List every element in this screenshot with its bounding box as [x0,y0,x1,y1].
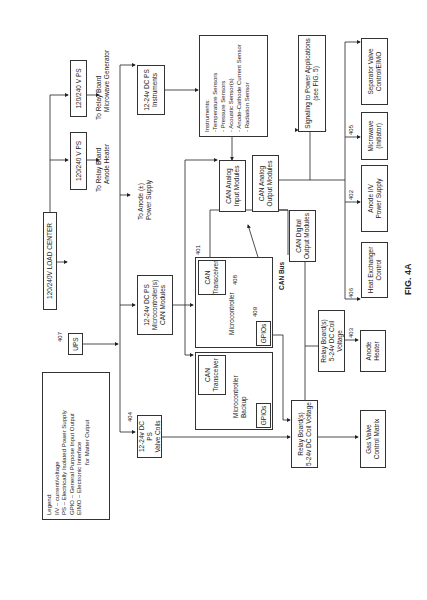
legend-box: Legend: I/V – current/voltage PS – Elect… [42,372,110,520]
dc-ps-valve-box: 12-24v DC PSValve Coils [137,415,162,458]
legend-title: Legend: [46,493,54,515]
ps-anode-heater-box: 120/240 V PS [70,132,87,190]
ref-409: 409 [252,307,258,317]
instruments-box: Instruments:-Temperature Sensors- Pressu… [199,35,268,137]
can-analog-input-box: CAN AnalogInput Modules [219,160,246,212]
signaling-box: Signaling to Power Applications(see FIG.… [298,35,326,132]
can-digital-output-box: CAN DigitalOutput Modules [289,210,316,262]
backup-label: MicrocontrollerBackup [232,375,248,418]
ref-408: 408 [232,275,238,285]
micro-gpios: GPIOs [256,321,271,346]
ref-402: 402 [348,190,354,200]
to-anode-ps-label: To Anode (±)Power Supply [137,180,153,220]
diagram-canvas: 400 Legend: I/V – current/voltage PS – E… [0,0,427,600]
relay-board-small-box: Relay Board(s)5-24v DC Coil Voltage [318,310,345,372]
ref-406: 406 [348,288,354,298]
legend-line: EIMO – Electronic Interface [76,442,84,515]
legend-line: PS – Electrically Isolated Power Supply [61,410,69,515]
ref-407: 407 [57,332,63,342]
gas-valve-box: Gas ValveControl Matrix [360,410,386,468]
backup-can-transceiver: CANTransceiver [198,355,226,395]
load-center-box: 120/240V LOAD CENTER [43,212,57,310]
legend-line: I/V – current/voltage [54,461,62,515]
relay-board-main-box: Relay Board(s)5-24v DC Coil Voltage [291,400,318,468]
ref-403: 403 [348,328,354,338]
to-relay-anode-label: To Relay BoardAnode Heater [95,144,111,192]
ref-405: 405 [348,125,354,135]
anode-heater-box: AnodeHeater [360,330,386,372]
ref-404: 404 [127,412,133,422]
microwave-box: Microwave(Initiator) [361,112,388,160]
can-bus-label: CAN Bus [278,262,286,290]
micro-label: Microcontroller [228,292,236,335]
ps-microwave-box: 120/240 V PS [70,60,87,117]
backup-gpios: GPIOs [256,403,271,428]
ups-box: UPS [68,333,83,355]
anode-iv-ps-box: Anode I/VPower Supply [361,165,388,232]
dc-ps-micro-box: 12-24v DC PSMicrocontroller(s)CAN Module… [137,275,173,335]
micro-can-transceiver: CANTransceiver [198,260,226,295]
can-analog-output-box: CAN AnalogOutput Modules [252,155,279,212]
figure-caption: FIG. 4A [403,263,413,295]
ref-401: 401 [195,245,201,255]
dc-ps-instruments-box: 12-24v DC PSInstruments [137,65,165,115]
legend-line: GPIO – General Purpose Input Output [69,413,77,515]
to-relay-microwave-label: To Relay BoardMicrowave Generator [95,50,111,120]
separator-valve-box: Separator ValveControl/EIMO [361,38,388,105]
legend-line: for Matter Output [84,420,92,515]
heat-exchanger-box: Heat ExchangerControl [361,242,388,298]
